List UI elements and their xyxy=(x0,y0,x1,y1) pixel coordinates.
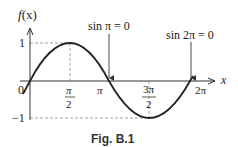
y-axis-label: f(x) xyxy=(18,7,37,22)
x-tick-two-pi: 2π xyxy=(195,84,207,96)
figure-caption: Fig. B.1 xyxy=(91,132,135,146)
x-tick-half-pi: π 2 xyxy=(65,84,75,110)
y-tick-1: 1 xyxy=(19,36,25,50)
y-tick-minus-1: −1 xyxy=(12,111,25,125)
x-axis-label: x xyxy=(220,73,227,87)
svg-text:π: π xyxy=(66,84,72,96)
svg-text:2: 2 xyxy=(66,98,72,110)
annotation-sin-pi: sin π = 0 xyxy=(88,19,130,33)
origin-label: 0 xyxy=(18,83,24,97)
x-tick-pi: π xyxy=(97,84,103,96)
svg-text:2: 2 xyxy=(146,98,152,110)
sine-chart: f(x) x 1 −1 0 π 2 π 3π 2 2π sin π = 0 si… xyxy=(0,0,238,147)
svg-text:3π: 3π xyxy=(143,83,155,95)
annotation-sin-2pi: sin 2π = 0 xyxy=(166,28,214,42)
